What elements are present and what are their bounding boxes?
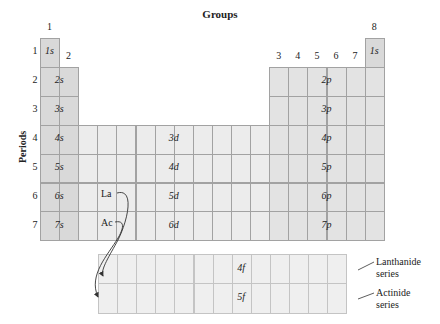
la-arrow bbox=[102, 192, 128, 276]
lanthanide-leader bbox=[358, 262, 374, 270]
lanthanide-series-label: Lanthanide series bbox=[376, 256, 421, 280]
actinide-series-label: Actinide series bbox=[376, 287, 410, 311]
ac-arrow bbox=[95, 222, 122, 297]
arrows-to-f-block bbox=[0, 0, 440, 324]
actinide-leader bbox=[358, 293, 374, 299]
